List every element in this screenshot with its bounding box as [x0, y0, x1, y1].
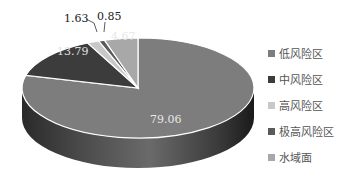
legend-item-medium-risk: 中风险区	[268, 66, 334, 92]
data-label: 79.06	[150, 113, 182, 126]
pie-chart: 79.0613.794.671.630.85	[0, 0, 260, 186]
legend-swatch-icon	[268, 50, 275, 57]
data-label: 4.67	[111, 30, 136, 43]
legend-label: 水域面	[279, 149, 312, 165]
data-label: 1.63	[64, 12, 89, 25]
legend-label: 高风险区	[279, 97, 323, 113]
legend-label: 中风险区	[279, 71, 323, 87]
legend-swatch-icon	[268, 102, 275, 109]
legend-item-extreme-risk: 极高风险区	[268, 118, 334, 144]
legend-swatch-icon	[268, 76, 275, 83]
data-label: 13.79	[57, 45, 89, 58]
legend-item-water: 水域面	[268, 144, 334, 170]
legend-swatch-icon	[268, 154, 275, 161]
legend: 低风险区 中风险区 高风险区 极高风险区 水域面	[268, 40, 334, 170]
legend-label: 低风险区	[279, 45, 323, 61]
data-label: 0.85	[97, 10, 122, 23]
legend-swatch-icon	[268, 128, 275, 135]
legend-item-low-risk: 低风险区	[268, 40, 334, 66]
legend-item-high-risk: 高风险区	[268, 92, 334, 118]
legend-label: 极高风险区	[279, 123, 334, 139]
